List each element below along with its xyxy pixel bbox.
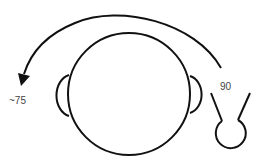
- end-angle-label: ~75: [9, 96, 26, 106]
- start-angle-label: 90: [220, 82, 231, 92]
- right-ear-icon: [190, 76, 202, 113]
- microphone-icon: [211, 93, 250, 148]
- head-icon: [68, 33, 190, 155]
